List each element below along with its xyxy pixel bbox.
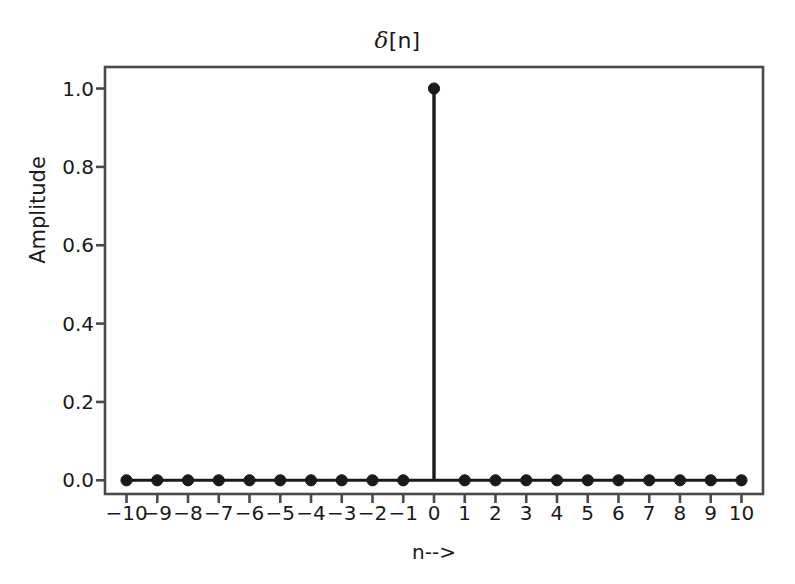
figure-canvas: δ[n] Amplitude n--> 0.00.20.40.60.81.0 −… <box>0 0 795 584</box>
chart-title-rest: [n] <box>389 28 421 53</box>
x-tick-label-group: −10−9−8−7−6−5−4−3−2−1012345678910 <box>0 502 795 532</box>
delta-symbol: δ <box>375 27 389 53</box>
x-axis-label: n--> <box>105 540 763 564</box>
y-tick-marks <box>96 89 105 481</box>
stem-plot-axes <box>0 0 795 584</box>
x-tick-label: 10 <box>711 502 771 524</box>
y-tick-label: 0.8 <box>24 157 94 177</box>
y-tick-label-group: 0.00.20.40.60.81.0 <box>0 0 94 584</box>
y-tick-label: 0.0 <box>24 470 94 490</box>
y-tick-label: 0.2 <box>24 392 94 412</box>
y-tick-label: 0.4 <box>24 314 94 334</box>
y-tick-label: 0.6 <box>24 235 94 255</box>
y-tick-label: 1.0 <box>24 79 94 99</box>
chart-title: δ[n] <box>0 26 795 55</box>
